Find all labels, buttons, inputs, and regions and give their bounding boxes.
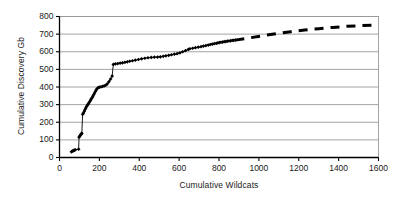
data-point-marker	[175, 52, 179, 56]
data-point-marker	[146, 56, 150, 60]
extrapolated-trend-line	[235, 25, 372, 40]
data-point-marker	[110, 74, 114, 78]
chart-figure: Cumulative Discovery Gb Cumulative Wildc…	[0, 0, 396, 199]
data-point-marker	[164, 54, 168, 58]
data-point-marker	[159, 55, 163, 59]
data-point-marker	[131, 59, 135, 63]
data-point-marker	[172, 52, 176, 56]
data-point-marker	[143, 56, 147, 60]
plot-area	[0, 0, 396, 199]
data-point-marker	[170, 53, 174, 57]
data-point-marker	[77, 147, 81, 151]
data-point-marker	[133, 58, 137, 62]
data-point-marker	[196, 45, 200, 49]
data-point-marker	[140, 57, 144, 61]
data-point-marker	[137, 58, 141, 62]
data-point-marker	[161, 54, 165, 58]
data-point-marker	[167, 53, 171, 57]
data-point-marker	[153, 55, 157, 59]
data-point-marker	[128, 59, 132, 63]
data-point-marker	[191, 46, 195, 50]
observed-series-markers	[70, 38, 238, 153]
data-point-marker	[149, 56, 153, 60]
data-point-marker	[194, 46, 198, 50]
